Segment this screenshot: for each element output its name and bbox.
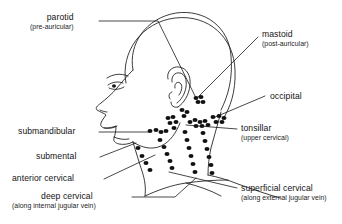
lymph-node-dot	[164, 129, 169, 133]
label-parotid: parotid (pre-auricular)	[30, 13, 74, 30]
lymph-node-dot	[220, 120, 225, 124]
leader-line-occipital	[213, 96, 265, 118]
head-outline-group	[96, 12, 280, 198]
leader-line-deep-cervical	[132, 178, 196, 197]
lymph-node-dot	[168, 121, 173, 125]
lymph-node-dot	[203, 139, 208, 143]
label-anterior-cervical-main: anterior cervical	[12, 174, 74, 183]
lymph-node-dot	[185, 138, 190, 142]
ear-antihelix	[172, 73, 186, 103]
leader-line-anterior-cervical	[104, 155, 155, 179]
cranium-outline	[132, 12, 231, 110]
lymph-node-dot	[159, 130, 164, 134]
lymph-node-dot	[209, 163, 214, 167]
trapezius-line	[186, 183, 221, 196]
lymph-node-dot	[162, 145, 167, 149]
leader-line-mastoid	[196, 37, 258, 99]
label-deep-cervical-sub: (along internal jugular vein)	[12, 202, 96, 209]
lymph-node-dot	[174, 120, 179, 124]
lymph-node-diagram-page: parotid (pre-auricular) mastoid (post-au…	[0, 0, 342, 224]
lymph-node-dot	[203, 119, 208, 123]
label-mastoid-sub: (post-auricular)	[262, 40, 309, 47]
submental-nodes	[148, 128, 169, 134]
lymph-node-dot	[201, 100, 206, 104]
lymph-node-dot	[171, 115, 176, 119]
label-anterior-cervical: anterior cervical	[12, 174, 74, 183]
label-occipital-main: occipital	[270, 92, 302, 101]
lymph-node-dot	[222, 116, 227, 120]
ear-concha	[175, 82, 182, 95]
label-mastoid: mastoid (post-auricular)	[262, 30, 309, 47]
lymph-node-dot	[207, 155, 212, 159]
lymph-node-dot	[148, 168, 153, 172]
superficial-cervical-chain	[201, 131, 215, 175]
lymph-node-dot	[191, 162, 196, 166]
label-submental-main: submental	[36, 152, 76, 161]
label-tonsillar-main: tonsillar	[241, 124, 289, 133]
ear-tragus	[169, 92, 172, 99]
label-parotid-sub: (pre-auricular)	[30, 23, 74, 30]
label-submental: submental	[36, 152, 76, 161]
lymph-node-dot	[158, 138, 163, 142]
lymph-node-dot	[144, 161, 149, 165]
label-superficial-cervical-sub: (along external jugular vein)	[241, 194, 327, 201]
neck-front-line	[133, 142, 145, 196]
lymph-node-dot	[180, 108, 185, 112]
lymph-node-dot	[196, 100, 201, 104]
face-profile	[96, 70, 133, 144]
label-superficial-cervical-main: superficial cervical	[241, 184, 327, 193]
label-deep-cervical-main: deep cervical	[12, 192, 96, 201]
lymph-node-dot	[214, 120, 219, 124]
deep-cervical-chain	[183, 130, 198, 174]
lymph-node-dot	[193, 118, 198, 122]
leader-line-tonsillar	[186, 125, 237, 129]
lymph-node-dot	[183, 130, 188, 134]
chin-curve	[114, 137, 129, 139]
label-tonsillar: tonsillar (upper cervical)	[241, 124, 289, 141]
lymph-node-dot	[140, 154, 145, 158]
lymph-node-dots	[136, 95, 227, 175]
pupil	[112, 84, 116, 88]
leader-line-submental	[100, 143, 136, 157]
lymph-node-dot	[170, 166, 175, 170]
lymph-node-dot	[201, 131, 206, 135]
lymph-node-dot	[136, 146, 141, 150]
lymph-node-dot	[210, 171, 215, 175]
lymph-node-dot	[187, 146, 192, 150]
lymph-node-dot	[188, 120, 193, 124]
lymph-node-dot	[165, 152, 170, 156]
lymph-node-dot	[185, 110, 190, 114]
label-parotid-main: parotid	[30, 13, 74, 22]
lymph-node-dot	[205, 147, 210, 151]
lymph-node-dot	[168, 159, 173, 163]
label-submandibular: submandibular	[18, 127, 75, 136]
lymph-node-dot	[148, 129, 153, 133]
lymph-node-dot	[182, 114, 187, 118]
label-mastoid-main: mastoid	[262, 30, 309, 39]
label-deep-cervical: deep cervical (along internal jugular ve…	[12, 192, 96, 209]
label-superficial-cervical: superficial cervical (along external jug…	[241, 184, 327, 201]
lymph-node-dot	[189, 154, 194, 158]
label-occipital: occipital	[270, 92, 302, 101]
lymph-node-dot	[172, 126, 177, 130]
tonsillar-nodes	[180, 108, 190, 118]
lymph-node-dot	[154, 128, 159, 132]
lymph-node-dot	[166, 116, 171, 120]
submandibular-nodes	[166, 115, 179, 130]
label-submandibular-main: submandibular	[18, 127, 75, 136]
label-tonsillar-sub: (upper cervical)	[241, 134, 289, 141]
lymph-node-dot	[198, 120, 203, 124]
lymph-node-dot	[193, 170, 198, 174]
